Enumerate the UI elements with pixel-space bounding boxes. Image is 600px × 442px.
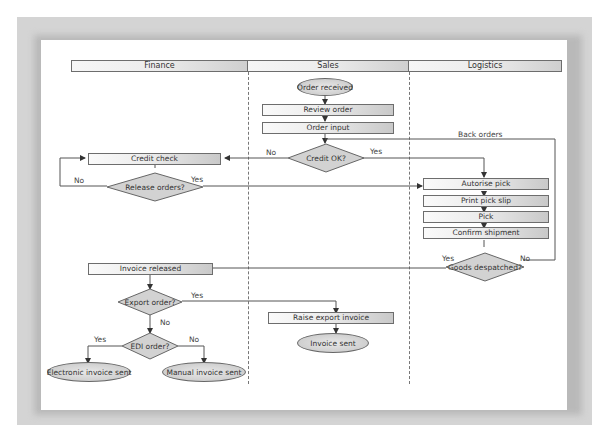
node-credit-check: Credit check <box>88 153 221 165</box>
edge-label-release-yes: Yes <box>191 175 203 184</box>
decision-export-order: Export order? <box>117 288 183 316</box>
node-autorise-pick: Autorise pick <box>423 178 549 190</box>
node-order-input: Order input <box>262 122 394 134</box>
decision-credit-ok: Credit OK? <box>287 143 365 173</box>
edge-label-despatched-no: No <box>520 254 530 263</box>
node-invoice-sent: Invoice sent <box>297 333 369 353</box>
decision-export-order-label: Export order? <box>117 298 183 307</box>
decision-release-orders-label: Release orders? <box>106 183 204 192</box>
edge-label-export-no: No <box>160 318 170 327</box>
decision-edi-order: EDI order? <box>121 332 179 360</box>
decision-goods-despatched: Goods despatched? <box>445 252 525 282</box>
edge-label-credit-yes: Yes <box>370 147 382 156</box>
edge-label-credit-no: No <box>266 148 276 157</box>
node-raise-export-invoice: Raise export invoice <box>268 312 394 324</box>
node-invoice-released: Invoice released <box>88 263 213 275</box>
edge-label-edi-yes: Yes <box>94 335 106 344</box>
node-confirm-shipment: Confirm shipment <box>423 227 549 239</box>
node-electronic-invoice-sent: Electronic invoice sent <box>47 362 131 382</box>
node-review-order: Review order <box>262 104 394 116</box>
decision-goods-despatched-label: Goods despatched? <box>445 263 525 272</box>
node-pick: Pick <box>423 211 549 223</box>
decision-edi-order-label: EDI order? <box>121 342 179 351</box>
node-order-received: Order received <box>297 78 353 96</box>
node-print-pick-slip: Print pick slip <box>423 195 549 207</box>
edge-label-edi-no: No <box>189 335 199 344</box>
decision-credit-ok-label: Credit OK? <box>287 154 365 163</box>
node-manual-invoice-sent: Manual invoice sent <box>162 362 246 382</box>
edge-label-export-yes: Yes <box>191 291 203 300</box>
edge-label-release-no: No <box>74 176 84 185</box>
edge-label-back-orders: Back orders <box>458 130 503 139</box>
edge-label-despatched-yes: Yes <box>442 254 454 263</box>
decision-release-orders: Release orders? <box>106 172 204 202</box>
